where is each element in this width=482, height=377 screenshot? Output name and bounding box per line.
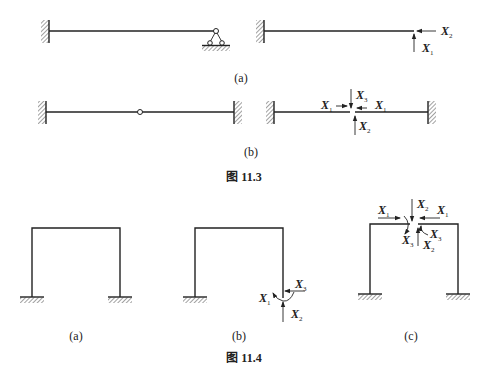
force-label-x2: X2 <box>440 24 453 40</box>
force-label-x3-left: X3 <box>401 233 414 249</box>
fig-11-4a-label: (a) <box>69 329 82 343</box>
fixed-support-left <box>20 297 44 303</box>
moment-arrow-x3-right <box>421 226 428 235</box>
fig-11-3a-original-beam <box>41 20 230 51</box>
fig-11-3b-basic-system: X1 X3 X1 X2 <box>266 88 436 135</box>
fig-11-4b-basic-system: X3 X1 X2 <box>183 228 307 323</box>
fixed-support-left <box>38 101 46 124</box>
fixed-support-left <box>266 101 274 124</box>
force-label-x1-left: X1 <box>320 98 333 114</box>
frame <box>32 228 120 297</box>
force-label-x1-right: X1 <box>436 203 449 219</box>
fig-11-3a-label: (a) <box>234 71 247 85</box>
fixed-support-left <box>358 294 382 300</box>
force-label-x1-left: X1 <box>377 203 390 219</box>
fig-11-3a-basic-system: X2 X1 <box>256 20 453 57</box>
pin-roller-support <box>202 29 230 52</box>
fig-11-3b-original-beam <box>38 101 242 124</box>
force-label-x1: X1 <box>421 41 434 57</box>
fixed-support-right <box>234 101 242 124</box>
fig-11-4c-basic-system: X1 X2 X1 X3 X3 X2 <box>358 197 470 300</box>
moment-arrow-x3-left <box>404 216 408 234</box>
force-label-x1-right: X1 <box>374 98 387 114</box>
intermediate-hinge <box>138 110 143 115</box>
force-label-x2-top: X2 <box>416 197 429 213</box>
force-label-x3: X3 <box>294 277 307 293</box>
diagram-canvas: X2 X1 (a) X1 X3 X1 X2 (b) 图 11.3 <box>0 0 482 377</box>
force-label-x2: X2 <box>290 307 303 323</box>
fixed-support-right <box>428 101 436 124</box>
fixed-support-left <box>256 20 264 43</box>
fig-11-4c-label: (c) <box>404 329 417 343</box>
force-label-x2: X2 <box>358 119 371 135</box>
frame <box>195 228 283 298</box>
fixed-support-left <box>183 297 207 303</box>
fixed-support-right <box>108 297 132 303</box>
figure-11-4-caption: 图 11.4 <box>226 351 261 365</box>
fig-11-4b-label: (b) <box>232 329 246 343</box>
fig-11-3b-label: (b) <box>244 145 258 159</box>
fixed-support-left <box>41 20 49 43</box>
force-label-x3: X3 <box>355 88 368 104</box>
fixed-support-right <box>446 294 470 300</box>
figure-11-3-caption: 图 11.3 <box>226 170 261 184</box>
fig-11-4a-portal-frame <box>20 228 132 303</box>
force-label-x1: X1 <box>258 291 271 307</box>
